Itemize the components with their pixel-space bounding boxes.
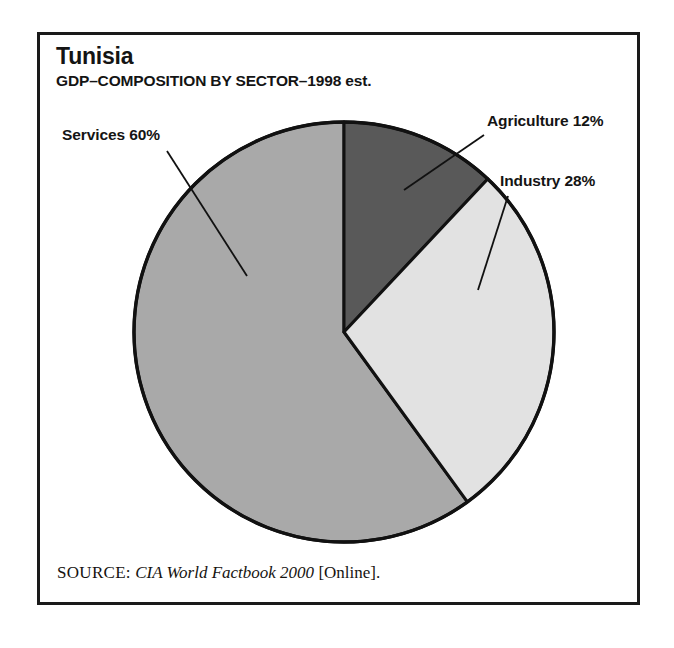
source-medium: [Online].: [318, 563, 380, 582]
source-publication-title: CIA World Factbook 2000: [135, 563, 314, 582]
title-block: Tunisia GDP–COMPOSITION BY SECTOR–1998 e…: [56, 44, 476, 90]
page-title: Tunisia: [56, 44, 476, 68]
slice-label-industry: Industry 28%: [500, 172, 595, 190]
figure-root: Tunisia GDP–COMPOSITION BY SECTOR–1998 e…: [0, 0, 674, 648]
source-note: SOURCE: CIA World Factbook 2000 [Online]…: [57, 563, 380, 583]
source-label: SOURCE:: [57, 563, 131, 582]
slice-label-agriculture: Agriculture 12%: [487, 112, 604, 130]
slice-label-services: Services 60%: [62, 126, 160, 144]
chart-subtitle: GDP–COMPOSITION BY SECTOR–1998 est.: [56, 72, 476, 90]
